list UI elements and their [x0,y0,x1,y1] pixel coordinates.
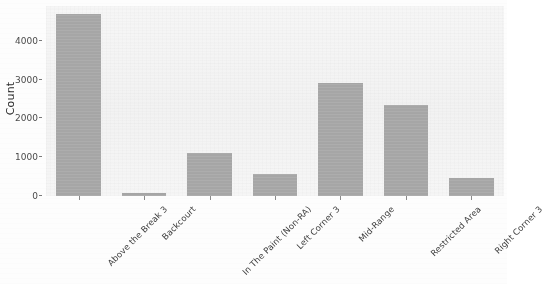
bar-texture [187,153,231,196]
y-axis-tick-label: 0 [0,190,38,202]
bar[interactable] [187,153,231,196]
bar-texture [384,105,428,197]
x-axis-tick-mark [275,196,276,200]
bar[interactable] [56,14,100,196]
x-axis-tick-mark [210,196,211,200]
x-axis-tick-label: Above the Break 3 [105,204,169,268]
y-axis-tick-mark [39,156,42,157]
y-axis-tick-label: 3000 [0,74,38,86]
x-axis-tick-label: Right Corner 3 [493,204,545,256]
x-axis-tick-mark [406,196,407,200]
x-axis-tick-label: Mid-Range [357,204,397,244]
y-axis-ticks: 01000200030004000 [0,0,46,284]
y-axis-tick-label: 1000 [0,151,38,163]
x-axis-tick-mark [340,196,341,200]
bar[interactable] [449,178,493,196]
bar[interactable] [253,174,297,196]
x-axis-tick-mark [79,196,80,200]
bar[interactable] [384,105,428,197]
x-axis-ticks [46,196,504,206]
panel-background-texture [46,6,504,196]
y-axis-tick-mark [39,79,42,80]
y-axis-tick-label: 4000 [0,35,38,47]
bar-texture [318,83,362,196]
bar[interactable] [318,83,362,196]
y-axis-tick-mark [39,40,42,41]
x-axis-tick-mark [471,196,472,200]
y-axis-tick-label: 2000 [0,112,38,124]
x-axis-tick-label: Restricted Area [428,204,482,258]
y-axis-tick-mark [39,117,42,118]
bar-texture [449,178,493,196]
x-axis-tick-mark [144,196,145,200]
plot-panel [46,6,504,196]
bar-texture [253,174,297,196]
bar-texture [56,14,100,196]
y-axis-tick-mark [39,195,42,196]
